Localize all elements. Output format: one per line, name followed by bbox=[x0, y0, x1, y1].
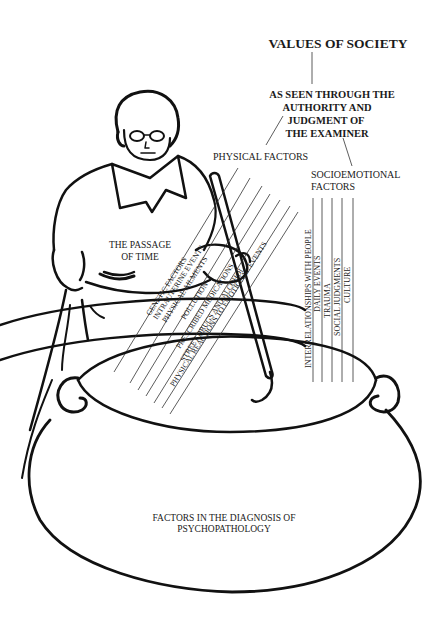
passage-of-time-line-1: THE PASSAGE bbox=[109, 240, 171, 250]
diagram-canvas: VALUES OF SOCIETY AS SEEN THROUGH THE AU… bbox=[0, 0, 444, 617]
title-values-of-society: VALUES OF SOCIETY bbox=[269, 36, 408, 51]
cauldron-rim-front bbox=[78, 380, 376, 432]
socioemotional-label-2: FACTORS bbox=[311, 181, 355, 192]
cauldron bbox=[22, 337, 420, 592]
collar bbox=[112, 156, 186, 212]
skirt-edge bbox=[22, 380, 52, 478]
hair-side bbox=[117, 132, 124, 146]
physical-factors-label: PHYSICAL FACTORS bbox=[213, 151, 308, 162]
subtitle-line-4: THE EXAMINER bbox=[285, 128, 369, 139]
socio-item-interrelationships: INTERRELATIONSHIPS WITH PEOPLE bbox=[304, 229, 313, 368]
cauldron-body bbox=[29, 410, 420, 592]
cauldron-label-line-2: PSYCHOPATHOLOGY bbox=[177, 524, 271, 534]
left-arm-inner bbox=[80, 252, 84, 280]
subtitle-line-2: AUTHORITY AND bbox=[282, 102, 372, 113]
socio-item-daily-events: DAILY EVENTS bbox=[313, 256, 322, 312]
glasses-left-lens bbox=[130, 131, 144, 141]
socioemotional-connector bbox=[343, 138, 352, 166]
left-handle bbox=[58, 378, 86, 412]
diagram-svg: VALUES OF SOCIETY AS SEEN THROUGH THE AU… bbox=[0, 0, 444, 617]
cauldron-label-line-1: FACTORS IN THE DIAGNOSIS OF bbox=[152, 513, 295, 523]
socioemotional-label-1: SOCIOEMOTIONAL bbox=[311, 169, 400, 180]
subtitle-line-1: AS SEEN THROUGH THE bbox=[269, 89, 394, 100]
socioemotional-factor-lines: INTERRELATIONSHIPS WITH PEOPLE DAILY EVE… bbox=[304, 198, 353, 382]
socio-item-culture: CULTURE bbox=[343, 267, 352, 303]
spoon-tip bbox=[252, 372, 272, 402]
left-arm bbox=[53, 250, 82, 290]
socio-item-trauma: TRAUMA bbox=[323, 283, 332, 318]
skirt-fold bbox=[62, 305, 70, 370]
header-group: VALUES OF SOCIETY AS SEEN THROUGH THE AU… bbox=[266, 36, 408, 166]
socio-item-social-judgments: SOCIAL JUDGMENTS bbox=[333, 258, 342, 336]
hand-detail bbox=[90, 306, 104, 318]
physical-connector bbox=[266, 116, 283, 145]
nose bbox=[145, 142, 149, 148]
glasses-right-lens bbox=[150, 131, 164, 141]
passage-of-time-line-2: OF TIME bbox=[121, 252, 159, 262]
subtitle-line-3: JUDGMENT OF bbox=[287, 115, 364, 126]
belt-line bbox=[104, 272, 134, 275]
left-shoulder bbox=[54, 164, 113, 250]
